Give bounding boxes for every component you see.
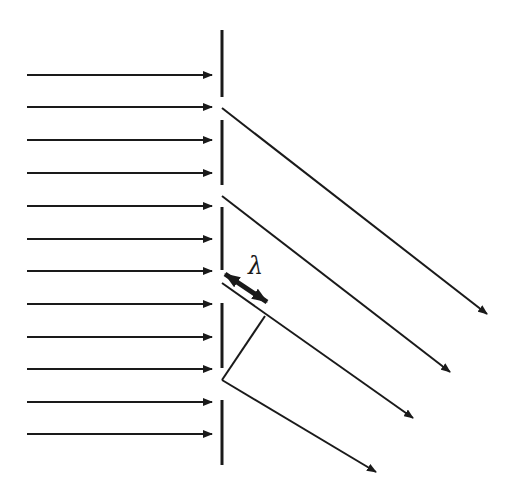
lambda-label: λ xyxy=(248,252,263,280)
incident-rays xyxy=(27,75,212,434)
diffracted-ray-arrow xyxy=(222,108,487,314)
diffracted-ray-arrow xyxy=(222,196,450,372)
diffracted-ray-arrow xyxy=(222,380,376,472)
wavefront-line xyxy=(222,316,265,380)
diffraction-diagram xyxy=(0,0,512,493)
wavefront-perpendicular xyxy=(222,316,265,380)
diffracted-rays xyxy=(222,108,487,472)
